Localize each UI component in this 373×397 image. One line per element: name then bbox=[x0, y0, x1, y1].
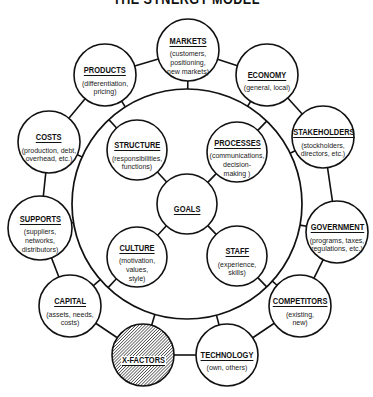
node-title-processes: PROCESSES bbox=[214, 139, 261, 149]
node-subtitle-culture: (motivation,values,style) bbox=[104, 257, 170, 283]
node-capital: CAPITAL(assets, needs,costs) bbox=[36, 290, 104, 327]
spoke-connector-technology bbox=[216, 315, 219, 325]
node-title-competitors: COMPETITORS bbox=[273, 297, 328, 307]
node-structure: STRUCTURE(responsibilities,functions) bbox=[104, 134, 170, 171]
node-title-staff: STAFF bbox=[225, 247, 249, 257]
node-subtitle-products: (differentiation,pricing) bbox=[71, 80, 139, 97]
node-title-capital: CAPITAL bbox=[54, 297, 86, 307]
spoke-connector-x-factors bbox=[152, 314, 155, 325]
node-x-factors: X-FACTORS bbox=[109, 349, 177, 367]
node-subtitle-staff: (experience,skills) bbox=[204, 261, 270, 278]
spoke-connector-economy bbox=[248, 101, 251, 106]
ring-spoke-connector-processes bbox=[258, 121, 267, 130]
node-competitors: COMPETITORS(existing,new) bbox=[266, 290, 334, 327]
ring-connector-government bbox=[314, 260, 323, 279]
node-economy: ECONOMY(general, local) bbox=[233, 64, 301, 93]
node-government: GOVERNMENT(programs, taxes,regulations, … bbox=[303, 216, 371, 253]
spoke-connector-competitors bbox=[272, 281, 277, 285]
node-title-x-factors: X-FACTORS bbox=[121, 356, 166, 366]
node-subtitle-economy: (general, local) bbox=[233, 84, 301, 93]
ring-spoke-connector-structure bbox=[109, 120, 117, 128]
node-goals: GOALS bbox=[154, 198, 220, 216]
ring-connector-stakeholders bbox=[328, 168, 333, 202]
ring-connector-capital bbox=[51, 258, 58, 277]
ring-connector-costs bbox=[69, 99, 85, 118]
node-title-goals: GOALS bbox=[174, 205, 201, 215]
ring-connector-economy bbox=[288, 98, 302, 114]
node-subtitle-structure: (responsibilities,functions) bbox=[104, 155, 170, 172]
node-subtitle-processes: (communications,decision-making ) bbox=[204, 152, 270, 178]
node-subtitle-stakeholders: (stockholders,directors, etc.) bbox=[289, 142, 357, 159]
node-title-markets: MARKETS bbox=[170, 37, 207, 47]
node-title-costs: COSTS bbox=[36, 133, 62, 143]
node-title-economy: ECONOMY bbox=[248, 71, 287, 81]
node-supports: SUPPORTS(suppliers,networks,distributors… bbox=[5, 208, 75, 254]
node-title-products: PRODUCTS bbox=[84, 66, 126, 76]
node-products: PRODUCTS(differentiation,pricing) bbox=[71, 59, 139, 96]
node-subtitle-markets: (customers,positioning,new markets) bbox=[154, 50, 222, 76]
node-technology: TECHNOLOGY(own, others) bbox=[193, 344, 261, 373]
node-title-supports: SUPPORTS bbox=[19, 215, 60, 225]
spoke-connector-capital bbox=[93, 280, 100, 286]
node-culture: CULTURE(motivation,values,style) bbox=[104, 237, 170, 283]
node-costs: COSTS(production, debt,overhead, etc.) bbox=[15, 126, 83, 163]
goals-connector-structure bbox=[157, 172, 166, 182]
node-subtitle-supports: (suppliers,networks,distributors) bbox=[5, 228, 75, 254]
node-title-technology: TECHNOLOGY bbox=[201, 351, 254, 361]
node-title-stakeholders: STAKEHOLDERS bbox=[293, 128, 354, 138]
node-subtitle-technology: (own, others) bbox=[193, 364, 261, 373]
node-processes: PROCESSES(communications,decision-making… bbox=[204, 132, 270, 178]
goals-connector-culture bbox=[158, 226, 167, 235]
ring-connector-supports bbox=[43, 173, 45, 196]
node-subtitle-capital: (assets, needs,costs) bbox=[36, 311, 104, 328]
node-title-structure: STRUCTURE bbox=[114, 141, 160, 151]
node-stakeholders: STAKEHOLDERS(stockholders,directors, etc… bbox=[289, 121, 357, 158]
ring-spoke-connector-staff bbox=[258, 278, 267, 287]
node-title-culture: CULTURE bbox=[119, 244, 154, 254]
node-staff: STAFF(experience,skills) bbox=[204, 240, 270, 277]
spoke-connector-products bbox=[122, 101, 126, 107]
node-markets: MARKETS(customers,positioning,new market… bbox=[154, 30, 222, 76]
node-subtitle-competitors: (existing,new) bbox=[266, 311, 334, 328]
node-subtitle-costs: (production, debt,overhead, etc.) bbox=[15, 147, 83, 164]
node-subtitle-government: (programs, taxes,regulations, etc.) bbox=[303, 237, 371, 254]
node-title-government: GOVERNMENT bbox=[310, 223, 364, 233]
goals-connector-staff bbox=[208, 226, 216, 235]
